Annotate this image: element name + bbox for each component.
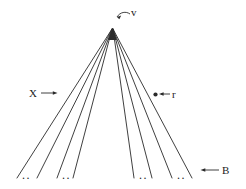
ellipsis-group-1: .. (22, 169, 31, 181)
ray-L4 (73, 29, 112, 178)
ray-L2 (37, 29, 112, 178)
ray-L3 (57, 29, 112, 178)
ray-bundle-left (17, 29, 112, 178)
ray-R1 (113, 29, 134, 178)
point-r-marker (153, 92, 157, 96)
vertex-label: v (131, 7, 137, 18)
ray-R2 (113, 29, 152, 178)
tree-diagram-figure: v X r B .. .. .. .. (0, 0, 246, 189)
point-r-label: r (172, 89, 176, 100)
ray-bundle-right (113, 29, 192, 178)
b-arrowhead-icon (201, 168, 206, 172)
ray-R4 (113, 29, 192, 178)
ellipsis-group-3: .. (139, 169, 148, 181)
ellipsis-group-4: .. (177, 169, 186, 181)
ray-R3 (113, 29, 172, 178)
x-arrowhead-icon (53, 91, 58, 95)
r-arrowhead-icon (159, 92, 164, 96)
branch-set-label: B (222, 165, 230, 176)
ray-L1 (17, 29, 112, 178)
ellipsis-group-2: .. (62, 169, 71, 181)
left-set-label: X (29, 88, 37, 99)
